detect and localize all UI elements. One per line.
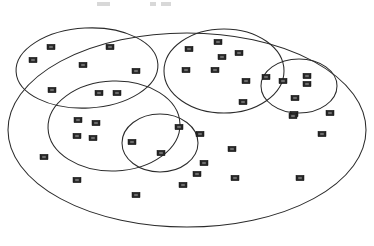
data-point-marker <box>239 99 247 104</box>
data-point-marker <box>291 95 299 100</box>
caption-fragment-mark-2 <box>161 2 171 6</box>
data-point-core <box>187 48 191 50</box>
data-point-marker <box>132 68 140 73</box>
data-point-core <box>241 101 245 103</box>
data-point-marker <box>132 192 140 197</box>
data-point-marker <box>214 39 222 44</box>
data-point-core <box>97 92 101 94</box>
data-point-core <box>49 46 53 48</box>
data-point-marker <box>228 146 236 151</box>
data-point-marker <box>29 57 37 62</box>
data-point-core <box>198 133 202 135</box>
data-point-core <box>76 119 80 121</box>
data-point-marker <box>47 44 55 49</box>
data-point-core <box>184 69 188 71</box>
data-point-core <box>328 112 332 114</box>
data-point-core <box>91 137 95 139</box>
data-point-marker <box>196 131 204 136</box>
data-point-core <box>94 122 98 124</box>
data-point-core <box>305 75 309 77</box>
data-point-core <box>220 56 224 58</box>
data-point-core <box>281 80 285 82</box>
data-point-marker <box>289 113 297 118</box>
data-point-core <box>134 70 138 72</box>
data-point-marker <box>73 177 81 182</box>
data-point-core <box>108 46 112 48</box>
data-point-core <box>244 80 248 82</box>
data-point-core <box>320 133 324 135</box>
data-point-core <box>81 64 85 66</box>
caption-fragment-mark-0 <box>97 2 110 6</box>
data-point-marker <box>279 78 287 83</box>
data-point-core <box>115 92 119 94</box>
data-point-marker <box>211 67 219 72</box>
data-point-core <box>159 152 163 154</box>
data-point-marker <box>74 117 82 122</box>
data-point-core <box>42 156 46 158</box>
data-point-marker <box>79 62 87 67</box>
data-point-core <box>291 115 295 117</box>
data-point-core <box>134 194 138 196</box>
data-point-core <box>213 69 217 71</box>
data-point-core <box>216 41 220 43</box>
data-point-core <box>50 89 54 91</box>
data-point-marker <box>182 67 190 72</box>
data-point-marker <box>262 74 270 79</box>
data-point-core <box>237 52 241 54</box>
data-point-marker <box>185 46 193 51</box>
data-point-marker <box>303 81 311 86</box>
data-point-marker <box>40 154 48 159</box>
data-point-marker <box>218 54 226 59</box>
data-point-core <box>233 177 237 179</box>
data-point-marker <box>175 124 183 129</box>
data-point-core <box>202 162 206 164</box>
data-point-core <box>181 184 185 186</box>
data-point-core <box>75 135 79 137</box>
caption-fragment-mark-1 <box>150 2 156 6</box>
data-point-core <box>130 141 134 143</box>
data-point-marker <box>193 171 201 176</box>
data-point-marker <box>303 73 311 78</box>
data-point-core <box>195 173 199 175</box>
cluster-ellipse-diagram <box>0 0 374 246</box>
data-point-marker <box>92 120 100 125</box>
data-point-core <box>177 126 181 128</box>
data-point-marker <box>128 139 136 144</box>
data-point-marker <box>242 78 250 83</box>
data-point-core <box>75 179 79 181</box>
data-point-marker <box>157 150 165 155</box>
diagram-canvas <box>0 0 374 246</box>
data-point-marker <box>231 175 239 180</box>
data-point-core <box>293 97 297 99</box>
data-point-marker <box>73 133 81 138</box>
data-point-core <box>31 59 35 61</box>
data-point-marker <box>318 131 326 136</box>
data-point-marker <box>113 90 121 95</box>
data-point-marker <box>296 175 304 180</box>
data-point-marker <box>179 182 187 187</box>
data-point-core <box>298 177 302 179</box>
data-point-marker <box>106 44 114 49</box>
data-point-marker <box>235 50 243 55</box>
data-point-core <box>264 76 268 78</box>
data-point-marker <box>89 135 97 140</box>
data-point-marker <box>326 110 334 115</box>
data-point-core <box>230 148 234 150</box>
data-point-core <box>305 83 309 85</box>
data-point-marker <box>200 160 208 165</box>
data-point-marker <box>95 90 103 95</box>
data-point-marker <box>48 87 56 92</box>
